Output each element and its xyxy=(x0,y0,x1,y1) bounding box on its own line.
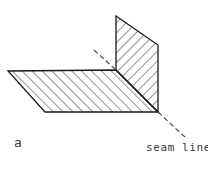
figure-panel-a: a seam line xyxy=(0,0,208,194)
seam-leader-lower-segment xyxy=(158,112,186,138)
horizontal-flange xyxy=(0,0,208,194)
technical-drawing-svg xyxy=(0,0,208,194)
seam-leader-upper-segment xyxy=(94,50,116,70)
panel-label: a xyxy=(14,136,22,149)
seam-line-label: seam line xyxy=(146,142,208,153)
